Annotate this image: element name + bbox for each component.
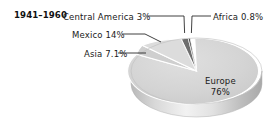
slice-label-europe-value: 76%: [205, 87, 236, 98]
pie-slices: [128, 38, 262, 104]
leader-line-central-america: [147, 16, 185, 33]
pie-chart-figure: 1941–1960: [0, 0, 277, 131]
leader-line-mexico: [122, 34, 161, 42]
leader-line-africa: [191, 16, 211, 33]
slice-label-africa: Africa 0.8%: [213, 12, 263, 22]
slice-label-mexico: Mexico 14%: [72, 30, 125, 40]
slice-label-europe: Europe 76%: [205, 76, 236, 97]
slice-label-asia: Asia 7.1%: [84, 49, 127, 59]
slice-label-central-america: Central America 3%: [63, 12, 151, 22]
slice-label-europe-name: Europe: [205, 76, 236, 86]
